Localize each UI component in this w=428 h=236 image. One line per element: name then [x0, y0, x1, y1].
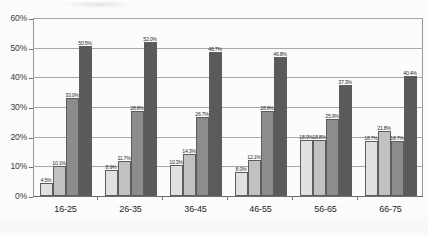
x-category-label-46-55: 46-55 — [228, 196, 293, 218]
bar-56-65-s3[interactable]: 25.9% — [326, 119, 339, 196]
bar-value-label: 18.7% — [390, 135, 403, 141]
bar-36-45-s1[interactable]: 10.3% — [170, 165, 183, 196]
bar-slot: 40.4% — [404, 18, 417, 196]
bar-value-label: 11.7% — [117, 155, 130, 161]
bar-26-35-s4[interactable]: 52.0% — [144, 42, 157, 196]
bar-group-26-35: 8.9%11.7%28.8%52.0% — [98, 18, 163, 196]
bar-slot: 10.1% — [53, 18, 66, 196]
bar-66-75-s2[interactable]: 21.8% — [378, 131, 391, 196]
bar-slot: 12.1% — [248, 18, 261, 196]
bar-16-25-s4[interactable]: 50.5% — [79, 46, 92, 196]
bar-value-label: 37.3% — [338, 79, 351, 85]
bar-16-25-s1[interactable]: 4.5% — [40, 183, 53, 196]
bar-56-65-s2[interactable]: 18.8% — [313, 140, 326, 196]
bar-value-label: 48.7% — [208, 46, 221, 52]
bar-slot: 21.8% — [378, 18, 391, 196]
bar-groups: 4.5%10.1%33.0%50.5%8.9%11.7%28.8%52.0%10… — [33, 18, 423, 196]
bar-slot: 48.7% — [209, 18, 222, 196]
bar-46-55-s1[interactable]: 8.0% — [235, 172, 248, 196]
bar-slot: 8.0% — [235, 18, 248, 196]
bar-slot: 11.7% — [118, 18, 131, 196]
y-tick-label-10: 10% — [11, 161, 27, 171]
bar-slot: 46.8% — [274, 18, 287, 196]
bar-value-label: 50.5% — [78, 40, 91, 46]
bar-slot: 10.3% — [170, 18, 183, 196]
bar-slot: 50.5% — [79, 18, 92, 196]
bar-46-55-s3[interactable]: 28.8% — [261, 111, 274, 196]
bar-slot: 28.8% — [261, 18, 274, 196]
bar-value-label: 33.0% — [65, 92, 78, 98]
x-axis: 16-2526-3536-4546-5556-6566-75 — [33, 196, 423, 218]
bar-slot: 28.8% — [131, 18, 144, 196]
bar-slot: 4.5% — [40, 18, 53, 196]
bar-value-label: 28.8% — [130, 105, 143, 111]
bar-16-25-s2[interactable]: 10.1% — [53, 166, 66, 196]
bar-slot: 14.3% — [183, 18, 196, 196]
x-category-label-66-75: 66-75 — [358, 196, 423, 218]
bar-slot: 18.7% — [365, 18, 378, 196]
bar-slot: 18.9% — [300, 18, 313, 196]
bar-group-56-65: 18.9%18.8%25.9%37.3% — [293, 18, 358, 196]
y-tick-label-30: 30% — [11, 102, 27, 112]
y-axis: 0%10%20%30%40%50%60% — [0, 18, 33, 196]
bar-56-65-s1[interactable]: 18.9% — [300, 140, 313, 196]
bar-value-label: 18.9% — [299, 134, 312, 140]
bar-46-55-s4[interactable]: 46.8% — [274, 57, 287, 196]
bar-66-75-s3[interactable]: 18.7% — [391, 141, 404, 196]
bar-slot: 18.7% — [391, 18, 404, 196]
bar-chart: 0%10%20%30%40%50%60% 4.5%10.1%33.0%50.5%… — [0, 0, 428, 236]
bar-value-label: 26.7% — [195, 111, 208, 117]
bar-value-label: 8.0% — [236, 166, 247, 172]
bar-slot: 25.9% — [326, 18, 339, 196]
bar-value-label: 14.3% — [182, 148, 195, 154]
bar-26-35-s2[interactable]: 11.7% — [118, 161, 131, 196]
bar-group-36-45: 10.3%14.3%26.7%48.7% — [163, 18, 228, 196]
bar-value-label: 8.9% — [106, 164, 117, 170]
bar-group-46-55: 8.0%12.1%28.8%46.8% — [228, 18, 293, 196]
bar-slot: 8.9% — [105, 18, 118, 196]
bar-66-75-s4[interactable]: 40.4% — [404, 76, 417, 196]
y-tick-label-20: 20% — [11, 132, 27, 142]
bar-26-35-s3[interactable]: 28.8% — [131, 111, 144, 196]
bar-36-45-s4[interactable]: 48.7% — [209, 52, 222, 196]
bar-value-label: 12.1% — [247, 154, 260, 160]
x-category-label-56-65: 56-65 — [293, 196, 358, 218]
bar-slot: 52.0% — [144, 18, 157, 196]
bar-16-25-s3[interactable]: 33.0% — [66, 98, 79, 196]
bar-slot: 37.3% — [339, 18, 352, 196]
bar-56-65-s4[interactable]: 37.3% — [339, 85, 352, 196]
bar-66-75-s1[interactable]: 18.7% — [365, 141, 378, 196]
bar-group-16-25: 4.5%10.1%33.0%50.5% — [33, 18, 98, 196]
plot-area: 4.5%10.1%33.0%50.5%8.9%11.7%28.8%52.0%10… — [33, 18, 423, 196]
bar-46-55-s2[interactable]: 12.1% — [248, 160, 261, 196]
bar-slot: 33.0% — [66, 18, 79, 196]
x-category-label-26-35: 26-35 — [98, 196, 163, 218]
bar-value-label: 21.8% — [377, 125, 390, 131]
bar-36-45-s3[interactable]: 26.7% — [196, 117, 209, 196]
y-tick-label-0: 0% — [15, 191, 27, 201]
bar-26-35-s1[interactable]: 8.9% — [105, 170, 118, 196]
x-category-label-36-45: 36-45 — [163, 196, 228, 218]
bar-36-45-s2[interactable]: 14.3% — [183, 154, 196, 196]
bar-value-label: 40.4% — [403, 70, 416, 76]
x-category-label-16-25: 16-25 — [33, 196, 98, 218]
bar-value-label: 10.3% — [169, 159, 182, 165]
bar-value-label: 18.8% — [312, 134, 325, 140]
bar-value-label: 28.8% — [260, 105, 273, 111]
bar-value-label: 10.1% — [52, 160, 65, 166]
bar-value-label: 25.9% — [325, 113, 338, 119]
y-tick-label-50: 50% — [11, 43, 27, 53]
bar-value-label: 52.0% — [143, 36, 156, 42]
bar-group-66-75: 18.7%21.8%18.7%40.4% — [358, 18, 423, 196]
bar-value-label: 46.8% — [273, 51, 286, 57]
y-tick-label-60: 60% — [11, 13, 27, 23]
bar-slot: 26.7% — [196, 18, 209, 196]
bar-value-label: 18.7% — [364, 135, 377, 141]
scan-artifact — [64, 1, 134, 8]
y-tick-label-40: 40% — [11, 72, 27, 82]
bar-value-label: 4.5% — [41, 177, 52, 183]
bar-slot: 18.8% — [313, 18, 326, 196]
